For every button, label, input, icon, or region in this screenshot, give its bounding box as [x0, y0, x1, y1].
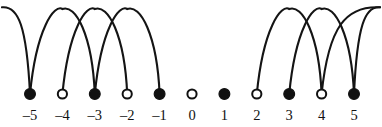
label-layer: –5–4–3–2–1012345	[22, 107, 358, 123]
node-dot-3	[284, 89, 295, 100]
node-dot-neg2	[123, 89, 132, 98]
node-dot-0	[187, 89, 196, 98]
tick-label-neg2: –2	[119, 107, 135, 123]
number-line-arc-figure: –5–4–3–2–1012345	[0, 0, 382, 127]
node-dot-neg4	[58, 89, 67, 98]
tick-label-1: 1	[221, 107, 228, 123]
node-layer	[25, 89, 360, 100]
tick-label-5: 5	[350, 107, 357, 123]
node-dot-4	[317, 89, 326, 98]
arc-5-to-edge	[354, 7, 380, 94]
tick-label-3: 3	[286, 107, 293, 123]
diagram-canvas: –5–4–3–2–1012345	[0, 0, 382, 127]
tick-label-neg1: –1	[151, 107, 167, 123]
tick-label-4: 4	[318, 107, 326, 123]
tick-label-neg4: –4	[54, 107, 70, 123]
arc-2-to-4	[257, 8, 322, 94]
arc--5-to--3	[30, 8, 95, 94]
tick-label-0: 0	[188, 107, 195, 123]
tick-label-neg3: –3	[87, 107, 103, 123]
arc--5-to-edge	[2, 7, 30, 94]
node-dot-neg5	[25, 89, 36, 100]
node-dot-2	[252, 89, 261, 98]
tick-label-2: 2	[253, 107, 260, 123]
node-dot-5	[349, 89, 360, 100]
node-dot-neg3	[89, 89, 100, 100]
arc-4-to-edge	[322, 7, 380, 94]
node-dot-1	[219, 89, 230, 100]
arc-layer	[2, 7, 380, 94]
tick-label-neg5: –5	[22, 107, 38, 123]
node-dot-neg1	[154, 89, 165, 100]
